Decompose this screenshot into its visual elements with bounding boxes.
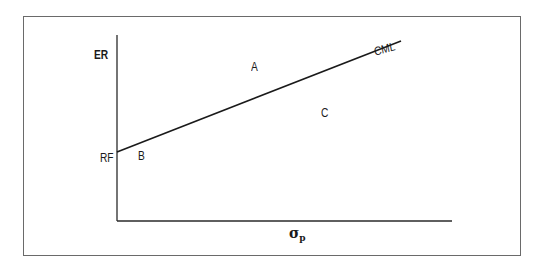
x-axis-label: σp — [289, 226, 306, 243]
cml-line — [117, 41, 401, 152]
point-b-label: B — [138, 150, 145, 162]
sigma-subscript: p — [299, 233, 305, 243]
point-c-label: C — [321, 107, 328, 119]
diagram-plot — [0, 0, 540, 272]
sigma-symbol: σ — [289, 225, 299, 241]
point-a-label: A — [251, 61, 258, 73]
y-axis-label: ER — [94, 49, 108, 61]
rf-label: RF — [100, 152, 114, 164]
